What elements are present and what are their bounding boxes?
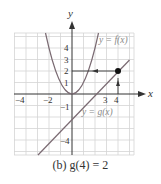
tick-y-2: 2 bbox=[64, 66, 69, 76]
tick-y-neg4: −4 bbox=[60, 136, 70, 146]
graph: −4 −2 3 4 4 3 2 1 −1 −4 x y y = f(x) y =… bbox=[0, 0, 161, 160]
tick-x-3: 3 bbox=[103, 95, 108, 105]
tick-x-neg2: −2 bbox=[43, 95, 53, 105]
x-axis-label: x bbox=[147, 87, 153, 99]
point-4-2 bbox=[115, 68, 121, 74]
tick-y-4: 4 bbox=[64, 43, 69, 53]
x-axis-arrow-icon bbox=[138, 91, 146, 97]
tick-y-1: 1 bbox=[64, 78, 69, 88]
tick-y-neg1: −1 bbox=[60, 102, 70, 112]
y-axis-arrow-icon bbox=[69, 21, 75, 29]
up-arrow-icon bbox=[116, 80, 120, 86]
f-label: y = f(x) bbox=[98, 35, 128, 46]
caption: (b) g(4) = 2 bbox=[0, 158, 161, 173]
tick-x-4: 4 bbox=[114, 95, 119, 105]
tick-x-neg4: −4 bbox=[15, 95, 25, 105]
tick-y-3: 3 bbox=[64, 55, 69, 65]
g-label: y = g(x) bbox=[81, 107, 113, 118]
y-axis-label: y bbox=[67, 7, 73, 19]
